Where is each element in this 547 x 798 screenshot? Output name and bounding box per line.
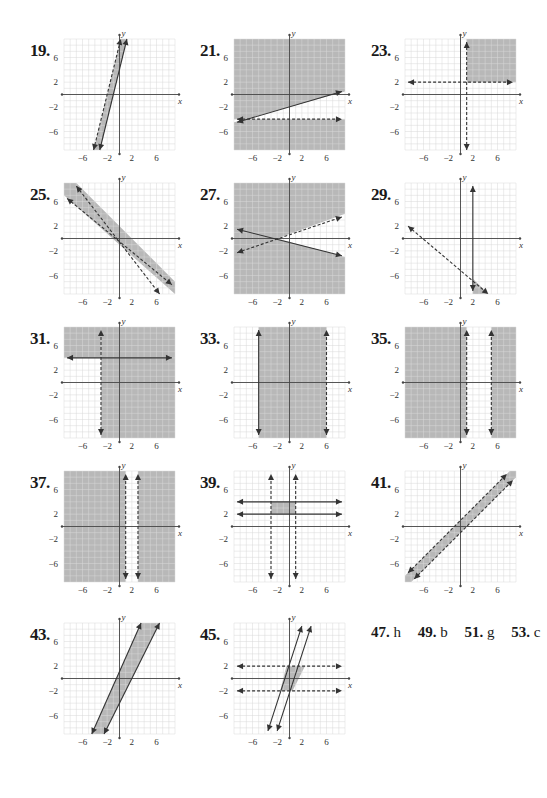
- y-axis-label: y: [462, 316, 467, 326]
- x-tick-label: 6: [154, 737, 159, 747]
- x-tick-label: −6: [419, 585, 429, 595]
- x-tick-label: 6: [324, 297, 329, 307]
- y-tick-label: −6: [389, 271, 399, 281]
- x-axis-label: x: [347, 680, 352, 690]
- x-tick-label: −6: [248, 441, 258, 451]
- y-tick-label: −6: [218, 415, 228, 425]
- x-tick-label: −6: [248, 585, 258, 595]
- y-tick-label: −2: [389, 246, 399, 256]
- inequality-graph: xy−6−22662−2−6: [212, 175, 357, 310]
- x-axis-label: x: [518, 240, 523, 250]
- x-tick-label: 6: [495, 441, 500, 451]
- x-tick-label: 6: [324, 737, 329, 747]
- y-tick-label: −6: [48, 415, 58, 425]
- x-axis-label: x: [518, 528, 523, 538]
- y-axis-label: y: [291, 28, 296, 38]
- x-tick-label: 2: [130, 153, 135, 163]
- y-tick-label: 2: [395, 509, 400, 519]
- x-tick-label: −6: [419, 441, 429, 451]
- x-tick-label: −2: [272, 585, 282, 595]
- x-tick-label: 6: [324, 585, 329, 595]
- y-tick-label: 2: [54, 77, 59, 87]
- y-axis-label: y: [291, 316, 296, 326]
- y-tick-label: 2: [224, 661, 229, 671]
- text-answers: 47. h 49. b 51. g 53. c: [371, 624, 547, 641]
- x-tick-label: −2: [443, 153, 453, 163]
- y-tick-label: 6: [395, 341, 400, 351]
- y-tick-label: 2: [54, 661, 59, 671]
- x-tick-label: −6: [248, 153, 258, 163]
- y-tick-label: 6: [395, 53, 400, 63]
- inequality-graph: xy−6−22662−2−6: [212, 319, 357, 454]
- x-tick-label: 2: [471, 585, 476, 595]
- x-tick-label: 2: [130, 297, 135, 307]
- y-tick-label: 2: [224, 77, 229, 87]
- y-tick-label: 6: [54, 341, 59, 351]
- x-tick-label: −2: [443, 441, 453, 451]
- y-tick-label: −6: [218, 271, 228, 281]
- x-tick-label: 6: [154, 585, 159, 595]
- y-axis-label: y: [291, 460, 296, 470]
- answer-number: 47.: [371, 624, 390, 640]
- inequality-graph: xy−6−22662−2−6: [42, 615, 187, 750]
- x-tick-label: −2: [443, 585, 453, 595]
- answer-value: b: [440, 624, 448, 640]
- y-tick-label: 2: [395, 365, 400, 375]
- answer-number: 51.: [465, 624, 484, 640]
- x-axis-label: x: [177, 384, 182, 394]
- x-axis-label: x: [177, 96, 182, 106]
- x-tick-label: 2: [130, 737, 135, 747]
- x-axis-label: x: [177, 528, 182, 538]
- x-tick-label: −6: [78, 153, 88, 163]
- y-tick-label: 2: [224, 509, 229, 519]
- x-tick-label: −2: [102, 441, 112, 451]
- y-tick-label: 2: [54, 365, 59, 375]
- y-tick-label: 6: [395, 197, 400, 207]
- x-tick-label: 2: [300, 297, 305, 307]
- x-axis-label: x: [347, 384, 352, 394]
- answer-53: 53. c: [511, 624, 540, 640]
- y-axis-label: y: [121, 28, 126, 38]
- x-axis-label: x: [347, 528, 352, 538]
- x-tick-label: −2: [272, 737, 282, 747]
- x-tick-label: −6: [78, 441, 88, 451]
- x-tick-label: −6: [248, 297, 258, 307]
- y-tick-label: 6: [224, 485, 229, 495]
- inequality-graph: xy−6−22662−2−6: [383, 319, 528, 454]
- x-tick-label: −6: [78, 297, 88, 307]
- x-tick-label: 2: [300, 737, 305, 747]
- arrowhead-icon: [464, 144, 470, 150]
- y-tick-label: −6: [218, 711, 228, 721]
- x-tick-label: −2: [443, 297, 453, 307]
- y-tick-label: −6: [48, 711, 58, 721]
- x-tick-label: 2: [471, 297, 476, 307]
- y-tick-label: 6: [224, 341, 229, 351]
- x-tick-label: 6: [495, 585, 500, 595]
- x-tick-label: 6: [495, 297, 500, 307]
- answer-number: 53.: [511, 624, 530, 640]
- y-axis-label: y: [291, 612, 296, 622]
- y-tick-label: −2: [389, 390, 399, 400]
- y-tick-label: −2: [48, 102, 58, 112]
- y-tick-label: −6: [48, 271, 58, 281]
- y-tick-label: 2: [224, 221, 229, 231]
- y-axis-label: y: [121, 460, 126, 470]
- x-tick-label: −6: [78, 585, 88, 595]
- answer-49: 49. b: [418, 624, 448, 640]
- x-tick-label: 2: [300, 585, 305, 595]
- answer-value: h: [394, 624, 402, 640]
- x-axis-label: x: [518, 384, 523, 394]
- x-tick-label: 6: [495, 153, 500, 163]
- x-tick-label: 2: [130, 441, 135, 451]
- y-tick-label: −2: [218, 390, 228, 400]
- y-tick-label: −2: [218, 534, 228, 544]
- answer-47: 47. h: [371, 624, 401, 640]
- x-tick-label: −2: [272, 441, 282, 451]
- answer-value: g: [487, 624, 495, 640]
- y-tick-label: 6: [54, 53, 59, 63]
- x-tick-label: −6: [419, 153, 429, 163]
- x-tick-label: 6: [154, 297, 159, 307]
- y-tick-label: −6: [48, 127, 58, 137]
- x-tick-label: 6: [324, 441, 329, 451]
- x-axis-label: x: [177, 240, 182, 250]
